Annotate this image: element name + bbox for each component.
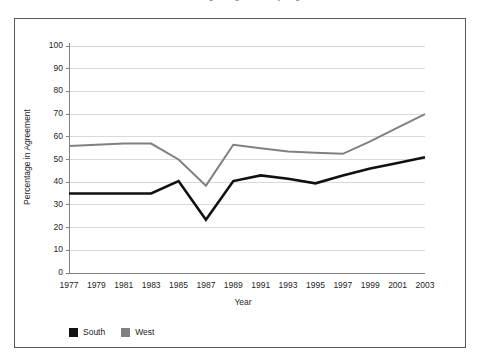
- plot-svg: [69, 46, 425, 273]
- y-tick-label: 80: [33, 86, 63, 95]
- y-tick-label: 90: [33, 64, 63, 73]
- chart-legend: SouthWest: [69, 324, 154, 340]
- legend-swatch-icon: [69, 328, 78, 337]
- chart-figure: Percentage in Agreement by Region Percen…: [0, 0, 486, 363]
- y-tick-label: 100: [33, 41, 63, 50]
- y-tick-label: 20: [33, 223, 63, 232]
- x-tick-label: 2003: [409, 281, 441, 290]
- y-tick-label: 50: [33, 155, 63, 164]
- y-tick-label: 10: [33, 245, 63, 254]
- y-tick-label: 40: [33, 177, 63, 186]
- legend-label: West: [135, 327, 154, 337]
- y-tick-label: 0: [33, 268, 63, 277]
- legend-entry-south: South: [69, 327, 105, 337]
- chart-title-cropped: Percentage in Agreement by Region: [0, 0, 486, 3]
- legend-label: South: [83, 327, 105, 337]
- plot-area: [69, 46, 425, 273]
- x-axis-title: Year: [0, 297, 486, 307]
- y-tick-label: 60: [33, 132, 63, 141]
- y-axis-title: Percentage in Agreement: [22, 87, 32, 227]
- y-tick-label: 70: [33, 109, 63, 118]
- legend-swatch-icon: [121, 328, 130, 337]
- series-line-south: [69, 157, 425, 219]
- y-tick-label: 30: [33, 200, 63, 209]
- series-line-west: [69, 114, 425, 186]
- legend-entry-west: West: [121, 327, 154, 337]
